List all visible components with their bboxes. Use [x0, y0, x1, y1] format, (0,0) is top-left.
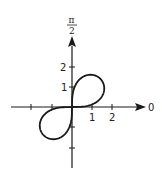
arrow-up-icon — [68, 36, 76, 47]
y-tick-label-2: 2 — [60, 62, 66, 73]
polar-label-zero: 0 — [148, 102, 154, 113]
polar-plot: 1 2 1 2 0 π 2 — [0, 0, 162, 177]
y-tick-label-1: 1 — [61, 82, 67, 93]
x-tick-label-2: 2 — [109, 112, 115, 123]
x-tick-label-1: 1 — [89, 112, 95, 123]
polar-label-pi-over-2-denominator: 2 — [69, 26, 75, 36]
polar-label-pi-over-2-numerator: π — [69, 15, 75, 25]
